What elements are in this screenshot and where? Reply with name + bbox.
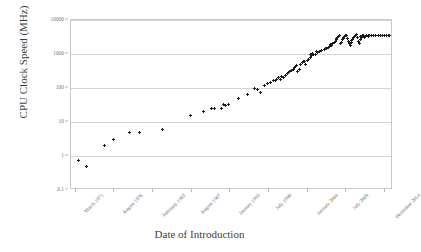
data-point: [77, 159, 80, 162]
data-point: [280, 75, 283, 78]
data-point: [387, 34, 390, 37]
data-point: [355, 33, 358, 36]
data-point: [161, 128, 164, 131]
gridline-y: [71, 122, 391, 123]
data-point: [367, 34, 370, 37]
gridline-y: [71, 88, 391, 89]
gridline-y: [71, 156, 391, 157]
data-point: [350, 41, 353, 44]
data-point: [383, 34, 386, 37]
x-axis-tick-label: July 2009: [351, 192, 370, 211]
data-point: [365, 34, 368, 37]
data-point: [358, 42, 361, 45]
data-point: [138, 131, 141, 134]
y-axis-title: CPU Clock Speed (MHz): [17, 0, 29, 137]
data-point: [298, 68, 301, 71]
data-point: [309, 56, 312, 59]
data-point: [237, 97, 240, 100]
cropped-caption-bottom: [150, 241, 330, 245]
y-axis-tick-label: 10: [59, 118, 64, 124]
x-axis-tick-label: February 1982: [161, 192, 187, 218]
data-point: [353, 35, 356, 38]
x-axis-tick-labels: March 1971August 1976February 1982August…: [70, 190, 392, 232]
data-point: [388, 34, 391, 37]
data-point: [274, 79, 277, 82]
data-point: [357, 40, 360, 43]
data-point: [359, 35, 362, 38]
data-point: [336, 36, 339, 39]
data-point: [299, 63, 302, 66]
data-point: [341, 38, 344, 41]
x-axis-tick-mark: [152, 189, 153, 192]
data-point: [202, 110, 205, 113]
y-axis-tick-mark: [65, 121, 68, 122]
x-axis-tick-mark: [113, 189, 114, 192]
data-point: [368, 34, 371, 37]
data-point: [329, 43, 332, 46]
data-point: [315, 50, 318, 53]
data-point: [288, 70, 291, 73]
data-point: [277, 76, 280, 79]
data-point: [340, 41, 343, 44]
data-point: [379, 34, 382, 37]
x-axis-tick-label: August 1976: [121, 192, 144, 215]
x-axis-tick-label: January 2004: [315, 192, 339, 216]
data-point: [331, 42, 334, 45]
data-point: [333, 41, 336, 44]
data-point: [325, 47, 328, 50]
data-point: [336, 36, 339, 39]
y-axis-tick-mark: [65, 155, 68, 156]
x-axis-tick-label: March 1971: [82, 192, 104, 214]
x-axis-tick-label: July 1998: [274, 192, 293, 211]
data-point: [352, 36, 355, 39]
data-point: [324, 47, 327, 50]
data-point: [293, 66, 296, 69]
data-point: [372, 34, 375, 37]
data-point: [272, 79, 275, 82]
data-point: [282, 76, 285, 79]
data-point: [350, 39, 353, 42]
gridline-y: [71, 54, 391, 55]
data-point: [128, 131, 131, 134]
x-axis-tick-mark: [384, 189, 385, 192]
data-point: [227, 103, 230, 106]
data-point: [337, 35, 340, 38]
data-point: [330, 44, 333, 47]
data-point: [269, 81, 272, 84]
data-point: [347, 40, 350, 43]
x-axis-tick-mark: [307, 189, 308, 192]
data-point: [381, 34, 384, 37]
x-axis-tick-label: December 2014: [394, 192, 421, 220]
data-point: [320, 49, 323, 52]
y-axis-tick-mark: [65, 53, 68, 54]
y-axis-tick-mark: [65, 189, 68, 190]
data-point: [370, 34, 373, 37]
y-axis-tick-label: 0.1: [57, 186, 64, 192]
data-point: [362, 34, 365, 37]
data-point: [342, 36, 345, 39]
data-point: [318, 50, 321, 53]
data-point: [301, 61, 304, 64]
y-axis-tick-label: 10000: [51, 16, 64, 22]
data-point: [259, 91, 262, 94]
data-point: [307, 58, 310, 61]
gridline-y: [71, 20, 391, 21]
data-point: [85, 165, 88, 168]
data-point: [374, 34, 377, 37]
y-axis-tick-mark: [65, 19, 68, 20]
data-point: [367, 35, 370, 38]
data-point: [348, 42, 351, 45]
data-point: [294, 65, 297, 68]
data-point: [354, 34, 357, 37]
plot-area: [70, 19, 392, 189]
x-axis-tick-mark: [268, 189, 269, 192]
data-point: [339, 42, 342, 45]
data-point: [323, 48, 326, 51]
data-point: [306, 59, 309, 62]
data-point: [213, 107, 216, 110]
data-point: [385, 34, 388, 37]
y-axis-tick-label: 100: [56, 84, 64, 90]
data-point: [359, 38, 362, 41]
data-point: [351, 38, 354, 41]
data-point: [361, 34, 364, 37]
